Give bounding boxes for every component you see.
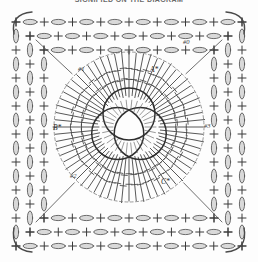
- label-round-1: #1: [78, 65, 85, 72]
- label-round-0: #0: [183, 38, 190, 45]
- label-round-3: #3: [204, 122, 211, 129]
- crochet-chart-svg: #0#1#2#3A*B*C*: [0, 0, 258, 262]
- diagram-canvas: SIGNIFIED ON THE DIAGRAM #0#1#2#3A*B*C*: [0, 0, 258, 262]
- label-round-2: #2: [70, 172, 77, 179]
- label-point-b: B*: [53, 123, 62, 132]
- border-stitch-group: [12, 12, 246, 252]
- label-point-c: C*: [161, 177, 170, 186]
- label-point-a: A*: [149, 65, 159, 74]
- radiating-stitch-group: [53, 51, 205, 203]
